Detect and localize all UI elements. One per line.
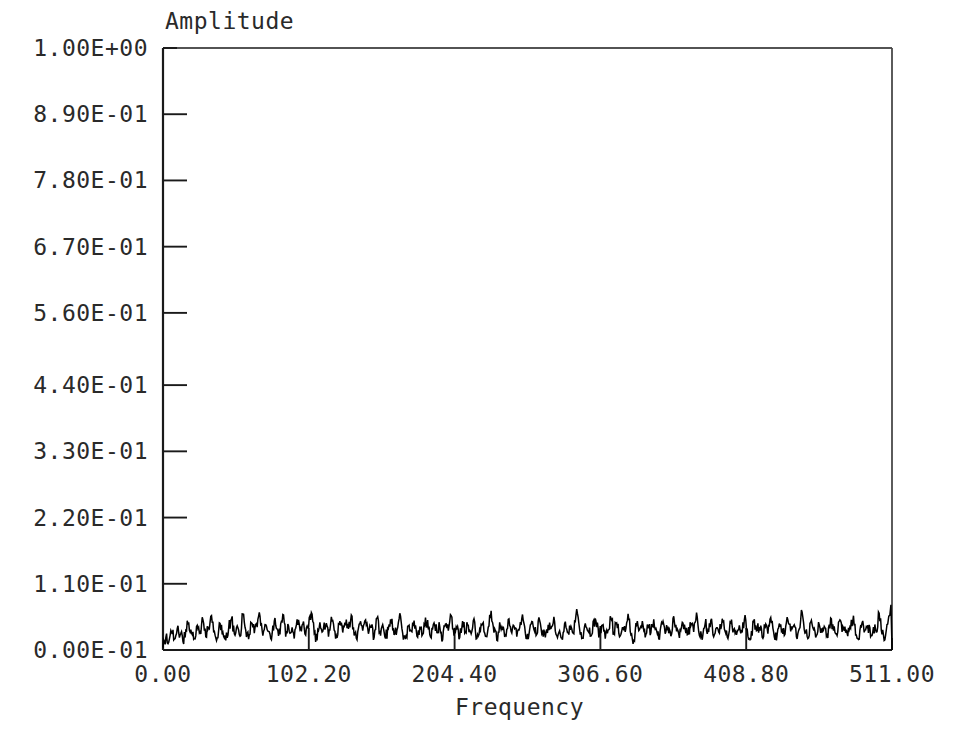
y-axis-ticks <box>163 48 187 650</box>
y-tick-label: 3.30E-01 <box>0 438 148 464</box>
chart-figure: Amplitude Frequency 0.00E-011.10E-012.20… <box>0 0 964 735</box>
y-tick-label: 4.40E-01 <box>0 372 148 398</box>
y-tick-label: 7.80E-01 <box>0 167 148 193</box>
x-axis-title: Frequency <box>0 694 964 720</box>
y-tick-label: 6.70E-01 <box>0 234 148 260</box>
x-tick-label: 0.00 <box>134 661 191 687</box>
y-tick-label: 2.20E-01 <box>0 505 148 531</box>
y-tick-label: 5.60E-01 <box>0 300 148 326</box>
y-tick-label: 1.00E+00 <box>0 35 148 61</box>
y-axis-title: Amplitude <box>165 8 294 34</box>
plot-frame <box>163 48 892 650</box>
y-tick-label: 8.90E-01 <box>0 101 148 127</box>
y-tick-label: 0.00E-01 <box>0 637 148 663</box>
x-tick-label: 306.60 <box>557 661 643 687</box>
x-tick-label: 204.40 <box>412 661 498 687</box>
y-tick-label: 1.10E-01 <box>0 571 148 597</box>
amplitude-spectrum-trace <box>163 605 892 650</box>
x-tick-label: 408.80 <box>703 661 789 687</box>
x-tick-label: 511.00 <box>849 661 935 687</box>
x-tick-label: 102.20 <box>266 661 352 687</box>
